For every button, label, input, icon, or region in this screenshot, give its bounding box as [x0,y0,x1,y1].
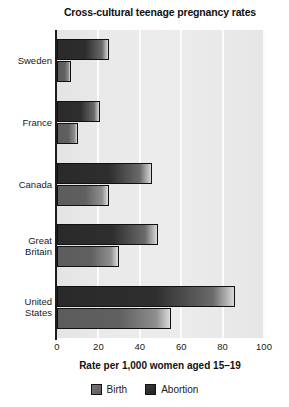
bar-abortion-canada [57,163,152,184]
bar-chart-figure: Cross-cultural teenage pregnancy rates S… [0,0,289,407]
bar-birth-great-britain [57,246,119,267]
y-axis-line [55,30,57,340]
bar-abortion-great-britain [57,224,158,245]
x-tick-20: 20 [83,341,113,352]
chart-title: Cross-cultural teenage pregnancy rates [46,6,274,18]
x-tick-40: 40 [125,341,155,352]
x-tick-60: 60 [166,341,196,352]
legend-item-abortion[interactable]: Abortion [145,384,198,395]
bar-birth-france [57,123,78,144]
legend-item-birth[interactable]: Birth [91,384,128,395]
legend-label-abortion: Abortion [161,384,198,395]
bar-birth-canada [57,185,109,206]
bar-abortion-united-states [57,286,235,307]
category-label-united-states: United States [0,296,52,318]
bar-birth-united-states [57,308,171,329]
x-axis-label: Rate per 1,000 women aged 15–19 [46,360,274,371]
plot-area [57,30,264,338]
abortion-swatch [145,384,156,395]
x-tick-0: 0 [42,341,72,352]
bar-birth-sweden [57,61,71,82]
category-label-canada: Canada [0,179,52,190]
category-label-sweden: Sweden [0,55,52,66]
category-label-great-britain: Great Britain [0,235,52,257]
gridline-100 [263,30,265,338]
chart-legend: BirthAbortion [0,384,289,395]
x-tick-100: 100 [249,341,279,352]
x-axis-tick-labels: 020406080100 [0,341,289,355]
category-label-france: France [0,117,52,128]
bar-abortion-sweden [57,39,109,60]
x-tick-80: 80 [208,341,238,352]
legend-label-birth: Birth [107,384,128,395]
birth-swatch [91,384,102,395]
bar-abortion-france [57,101,100,122]
